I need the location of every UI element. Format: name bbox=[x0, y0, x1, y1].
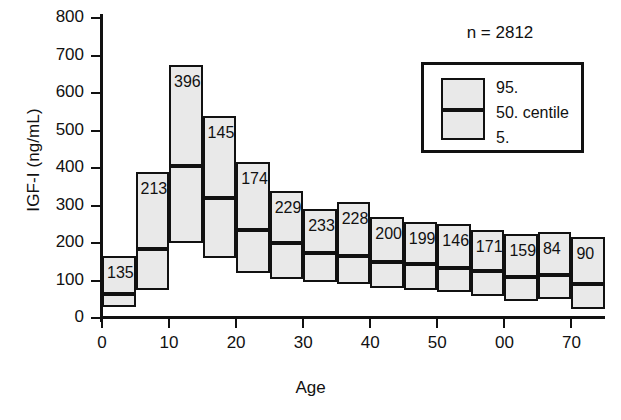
box-count-label: 233 bbox=[308, 218, 335, 234]
box-bar: 159 bbox=[504, 234, 538, 302]
y-tick-label: 700 bbox=[38, 45, 84, 65]
x-tick-label: 30 bbox=[283, 333, 323, 353]
median-line bbox=[337, 254, 371, 258]
y-tick-label: 0 bbox=[38, 307, 84, 327]
box-count-label: 135 bbox=[107, 265, 134, 281]
box-bar: 228 bbox=[337, 202, 371, 285]
median-line bbox=[169, 164, 203, 168]
x-tick bbox=[570, 319, 572, 328]
x-tick-label: 50 bbox=[417, 333, 457, 353]
x-tick bbox=[369, 319, 371, 328]
y-tick-label: 800 bbox=[38, 7, 84, 27]
median-line bbox=[236, 228, 270, 232]
box-bar: 90 bbox=[571, 237, 605, 308]
x-tick bbox=[101, 319, 103, 328]
y-tick bbox=[91, 242, 101, 244]
box-bar: 135 bbox=[102, 256, 136, 307]
median-line bbox=[102, 292, 136, 296]
y-tick-label: 100 bbox=[38, 270, 84, 290]
y-tick bbox=[91, 17, 101, 19]
box-bar: 174 bbox=[236, 162, 270, 273]
median-line bbox=[370, 260, 404, 264]
box-count-label: 228 bbox=[342, 211, 369, 227]
box-count-label: 199 bbox=[409, 231, 436, 247]
box-count-label: 396 bbox=[174, 74, 201, 90]
box-bar: 200 bbox=[370, 217, 404, 288]
box-count-label: 174 bbox=[241, 171, 268, 187]
median-line bbox=[437, 266, 471, 270]
legend-median-line bbox=[441, 108, 485, 112]
box-count-label: 229 bbox=[275, 200, 302, 216]
box-bar: 229 bbox=[270, 191, 304, 279]
x-tick-label: 10 bbox=[149, 333, 189, 353]
box-bar: 213 bbox=[136, 172, 170, 290]
legend-label-p50: 50. centile bbox=[496, 105, 569, 121]
x-tick bbox=[436, 319, 438, 328]
box-count-label: 213 bbox=[141, 181, 168, 197]
median-line bbox=[203, 196, 237, 200]
median-line bbox=[303, 251, 337, 255]
y-tick bbox=[91, 167, 101, 169]
x-axis-title: Age bbox=[0, 378, 621, 398]
median-line bbox=[471, 269, 505, 273]
median-line bbox=[571, 282, 605, 286]
x-tick-label: 20 bbox=[216, 333, 256, 353]
box-bar: 171 bbox=[471, 230, 505, 296]
x-tick bbox=[302, 319, 304, 328]
median-line bbox=[538, 273, 572, 277]
median-line bbox=[504, 275, 538, 279]
median-line bbox=[136, 247, 170, 251]
box-count-label: 84 bbox=[543, 241, 561, 257]
box-count-label: 200 bbox=[375, 226, 402, 242]
x-tick bbox=[503, 319, 505, 328]
y-tick-label: 300 bbox=[38, 195, 84, 215]
x-tick-label: 0 bbox=[82, 333, 122, 353]
legend-label-p5: 5. bbox=[496, 130, 509, 146]
box-bar: 199 bbox=[404, 222, 438, 290]
box-count-label: 146 bbox=[442, 233, 469, 249]
y-tick bbox=[91, 92, 101, 94]
y-tick bbox=[91, 55, 101, 57]
y-tick-label: 200 bbox=[38, 232, 84, 252]
y-tick bbox=[91, 280, 101, 282]
box-bar: 145 bbox=[203, 116, 237, 259]
median-line bbox=[270, 241, 304, 245]
box-count-label: 171 bbox=[476, 239, 503, 255]
box-bar: 146 bbox=[437, 224, 471, 292]
x-tick bbox=[168, 319, 170, 328]
x-tick-label: 00 bbox=[484, 333, 524, 353]
box-count-label: 90 bbox=[576, 246, 594, 262]
box-bar: 396 bbox=[169, 65, 203, 243]
y-tick bbox=[91, 130, 101, 132]
y-tick-label: 600 bbox=[38, 82, 84, 102]
box-count-label: 145 bbox=[208, 125, 235, 141]
y-tick bbox=[91, 317, 101, 319]
y-tick-label: 500 bbox=[38, 120, 84, 140]
median-line bbox=[404, 262, 438, 266]
y-tick-label: 400 bbox=[38, 157, 84, 177]
sample-size-annotation: n = 2812 bbox=[420, 23, 580, 43]
legend: 95. 50. centile 5. bbox=[421, 62, 584, 153]
y-tick bbox=[91, 205, 101, 207]
chart-figure: IGF-I (ng/mL) Age 0100200300400500600700… bbox=[0, 0, 621, 420]
x-tick bbox=[235, 319, 237, 328]
x-tick-label: 70 bbox=[551, 333, 591, 353]
box-count-label: 159 bbox=[509, 243, 536, 259]
box-bar: 233 bbox=[303, 209, 337, 282]
x-tick-label: 40 bbox=[350, 333, 390, 353]
legend-swatch-icon bbox=[441, 78, 485, 140]
box-bar: 84 bbox=[538, 232, 572, 300]
legend-label-p95: 95. bbox=[496, 80, 518, 96]
